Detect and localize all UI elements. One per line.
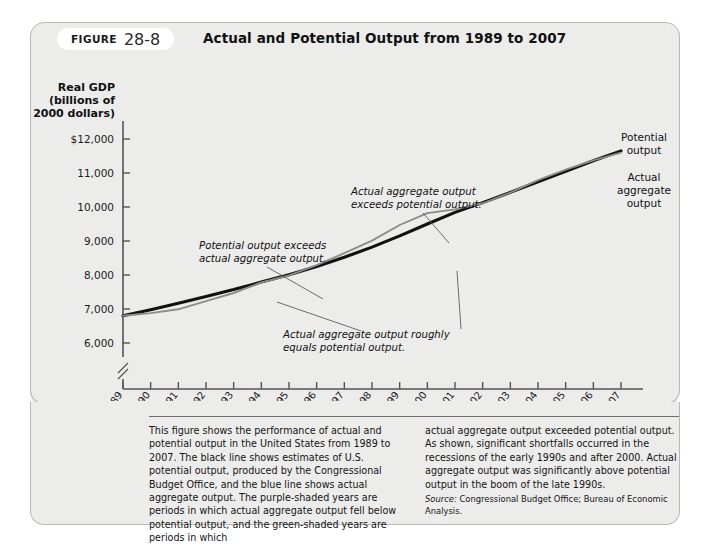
figure-title: Actual and Potential Output from 1989 to…: [203, 30, 566, 46]
svg-text:2003: 2003: [488, 389, 512, 401]
svg-text:2000 dollars): 2000 dollars): [33, 107, 115, 120]
caption-column-right: actual aggregate output exceeded potenti…: [425, 424, 683, 545]
caption-column-left: This figure shows the performance of act…: [149, 424, 407, 545]
chart-plot-area: Real GDP(billions of2000 dollars) $12,00…: [31, 53, 679, 401]
svg-text:Potential output exceeds: Potential output exceeds: [199, 240, 327, 251]
svg-text:1993: 1993: [211, 389, 235, 401]
svg-text:Actual: Actual: [628, 171, 661, 183]
svg-text:Potential: Potential: [621, 131, 667, 143]
figure-header: FIGURE 28-8 Actual and Potential Output …: [31, 23, 679, 53]
y-axis-ticks: $12,00011,00010,0009,0008,0007,0006,000: [71, 133, 130, 349]
x-axis-ticks: 1989199019911992199319941995199619971998…: [100, 382, 622, 401]
line-chart: Real GDP(billions of2000 dollars) $12,00…: [31, 53, 679, 401]
svg-text:10,000: 10,000: [77, 201, 114, 213]
svg-text:exceeds potential output.: exceeds potential output.: [351, 199, 482, 210]
svg-text:1999: 1999: [377, 389, 401, 401]
y-axis-title: Real GDP(billions of2000 dollars): [33, 81, 115, 120]
caption-source-label: Source:: [425, 494, 457, 504]
svg-text:2007: 2007: [598, 389, 622, 401]
series-labels: PotentialoutputActualaggregateoutput: [617, 131, 671, 209]
svg-text:aggregate: aggregate: [617, 184, 671, 196]
svg-text:2005: 2005: [543, 389, 567, 401]
svg-text:11,000: 11,000: [77, 167, 114, 179]
caption-text-right: actual aggregate output exceeded potenti…: [425, 424, 683, 491]
caption-divider: [149, 416, 679, 417]
svg-text:1990: 1990: [128, 389, 152, 401]
caption-text-left: This figure shows the performance of act…: [149, 424, 407, 545]
svg-text:2000: 2000: [405, 389, 429, 401]
svg-text:1996: 1996: [294, 389, 318, 401]
svg-text:$12,000: $12,000: [71, 133, 114, 145]
caption-card: This figure shows the performance of act…: [30, 402, 680, 525]
svg-text:2006: 2006: [571, 389, 595, 401]
data-series: [123, 151, 621, 316]
figure-card: FIGURE 28-8 Actual and Potential Output …: [30, 22, 680, 404]
caption-source: Source: Congressional Budget Office; Bur…: [425, 494, 683, 517]
svg-text:1994: 1994: [239, 389, 263, 401]
figure-number-badge: FIGURE 28-8: [57, 28, 174, 50]
series-actual: [123, 153, 621, 316]
svg-text:9,000: 9,000: [84, 235, 114, 247]
caption-columns: This figure shows the performance of act…: [149, 424, 684, 545]
svg-text:Actual aggregate output: Actual aggregate output: [350, 186, 477, 197]
svg-text:Real GDP: Real GDP: [58, 81, 115, 94]
svg-text:actual aggregate output.: actual aggregate output.: [199, 253, 326, 264]
svg-text:2004: 2004: [515, 389, 539, 401]
svg-text:1991: 1991: [156, 389, 180, 401]
svg-text:8,000: 8,000: [84, 269, 114, 281]
svg-text:2001: 2001: [432, 389, 456, 401]
svg-text:output: output: [627, 197, 662, 209]
caption-source-text: Congressional Budget Office; Bureau of E…: [425, 494, 668, 516]
svg-text:1995: 1995: [266, 389, 290, 401]
svg-text:1998: 1998: [349, 389, 373, 401]
series-potential: [123, 151, 621, 316]
figure-number: 28-8: [124, 30, 160, 49]
svg-text:6,000: 6,000: [84, 337, 114, 349]
svg-text:(billions of: (billions of: [49, 94, 115, 107]
figure-label: FIGURE: [71, 33, 117, 45]
svg-text:2002: 2002: [460, 389, 484, 401]
svg-text:1992: 1992: [183, 389, 207, 401]
svg-text:7,000: 7,000: [84, 303, 114, 315]
svg-text:output: output: [627, 144, 662, 156]
svg-text:1989: 1989: [100, 389, 124, 401]
svg-text:1997: 1997: [322, 389, 346, 401]
svg-text:Actual aggregate output roughl: Actual aggregate output roughly: [282, 329, 451, 340]
svg-text:equals potential output.: equals potential output.: [283, 342, 405, 353]
